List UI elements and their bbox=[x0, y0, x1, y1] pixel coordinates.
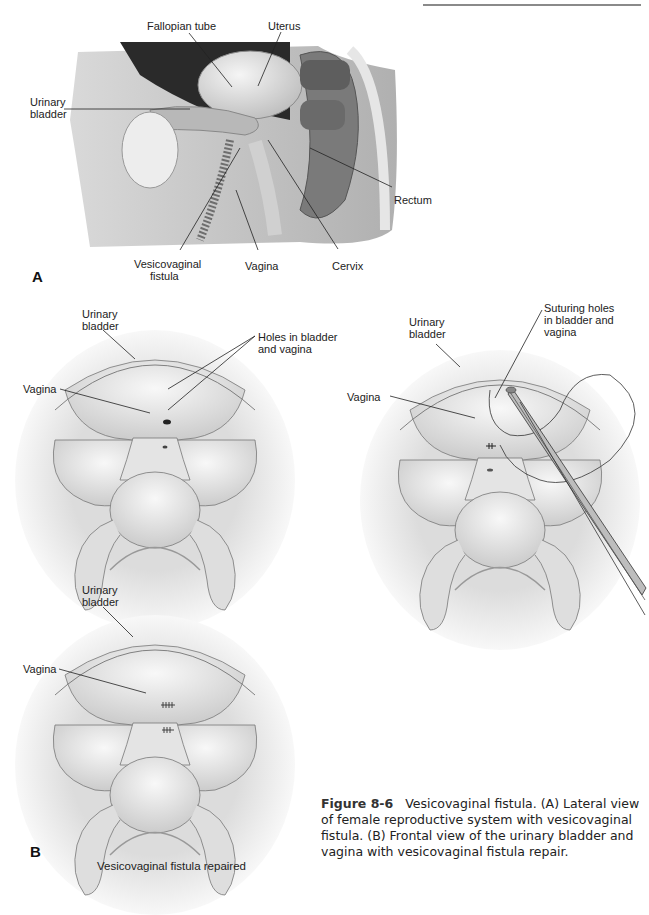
label-urinary-bladder-b3-2: bladder bbox=[82, 596, 119, 609]
repaired-subcaption: Vesicovaginal fistula repaired bbox=[97, 860, 246, 872]
panel-letter-b: B bbox=[30, 843, 41, 860]
figure-label: Figure 8-6 bbox=[321, 796, 393, 811]
label-vagina-b3: Vagina bbox=[23, 663, 56, 676]
figure-caption: Figure 8-6 Vesicovaginal fistula. (A) La… bbox=[321, 796, 641, 860]
